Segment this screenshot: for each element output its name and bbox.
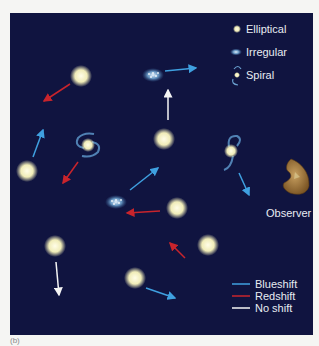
blueshift-arrow <box>146 288 175 298</box>
blueshift-arrow <box>165 68 196 71</box>
elliptical-galaxy <box>166 197 188 219</box>
irregular-galaxy <box>142 68 164 82</box>
legend-spiral-icon <box>233 67 241 86</box>
legend-elliptical-icon <box>233 25 241 33</box>
blueshift-arrow <box>33 130 43 157</box>
legend-elliptical-label: Elliptical <box>246 23 286 35</box>
no-shift-arrow <box>56 262 59 295</box>
panel-caption: (b) <box>10 336 20 346</box>
elliptical-galaxy <box>124 267 146 289</box>
elliptical-galaxy <box>197 234 219 256</box>
legend-irregular-icon <box>230 49 242 56</box>
legend-irregular-label: Irregular <box>246 46 287 58</box>
legend-redshift-label: Redshift <box>255 290 295 302</box>
elliptical-galaxy <box>70 65 92 87</box>
redshift-arrow <box>170 243 185 258</box>
spiral-galaxy <box>77 134 99 157</box>
galaxy-motion-diagram: Elliptical Irregular Spiral Blueshift Re… <box>10 13 313 335</box>
blueshift-arrow <box>130 168 158 190</box>
galaxy-layer <box>16 65 240 289</box>
redshift-arrow <box>127 211 160 213</box>
irregular-galaxy <box>105 195 127 209</box>
observer-icon <box>283 159 309 194</box>
elliptical-galaxy <box>153 128 175 150</box>
spiral-galaxy <box>224 136 240 170</box>
legend-no-shift-label: No shift <box>255 302 292 314</box>
redshift-arrow <box>44 84 70 101</box>
arrow-layer <box>33 68 249 298</box>
elliptical-galaxy <box>16 160 38 182</box>
legend-spiral-label: Spiral <box>246 69 274 81</box>
blueshift-arrow <box>239 173 249 195</box>
redshift-arrow <box>63 162 78 183</box>
legend-blueshift-label: Blueshift <box>255 278 297 290</box>
elliptical-galaxy <box>44 235 66 257</box>
observer-label: Observer <box>266 207 311 219</box>
